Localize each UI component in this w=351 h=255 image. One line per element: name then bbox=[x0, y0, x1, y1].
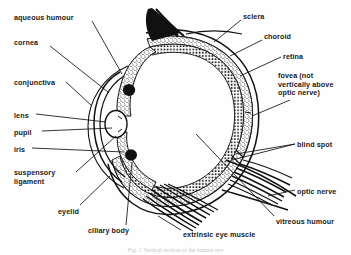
label-cornea: cornea bbox=[14, 39, 38, 48]
label-ciliary-body: ciliary body bbox=[88, 227, 129, 236]
label-retina: retina bbox=[283, 53, 303, 62]
vitreous-humour-region bbox=[181, 123, 183, 125]
label-pupil: pupil bbox=[14, 129, 32, 138]
label-eyelid: eyelid bbox=[58, 208, 79, 217]
label-vitreous-humour: vitreous humour bbox=[276, 218, 334, 227]
label-conjunctiva: conjunctiva bbox=[14, 79, 55, 88]
label-suspensory-ligament: suspensory ligament bbox=[14, 169, 55, 186]
label-choroid: choroid bbox=[264, 33, 291, 42]
label-extrinsic-eye-muscle: extrinsic eye muscle bbox=[183, 231, 255, 240]
label-blind-spot: blind spot bbox=[297, 141, 332, 150]
label-aqueous-humour: aqueous humour bbox=[14, 14, 74, 23]
figure-caption: Fig. 1 Vertical section of the human eye bbox=[0, 247, 351, 253]
iris-upper bbox=[123, 84, 135, 96]
label-optic-nerve: optic nerve bbox=[297, 188, 336, 197]
label-iris: iris bbox=[14, 146, 25, 155]
iris-lower bbox=[125, 149, 137, 161]
label-lens: lens bbox=[14, 112, 29, 121]
extrinsic-eye-muscle-upper bbox=[186, 31, 242, 34]
lens-shape bbox=[105, 111, 127, 138]
label-sclera: sclera bbox=[243, 13, 264, 22]
label-fovea: fovea (not vertically above optic nerve) bbox=[278, 72, 334, 98]
eye-diagram: aqueous humour cornea conjunctiva lens p… bbox=[0, 0, 351, 255]
